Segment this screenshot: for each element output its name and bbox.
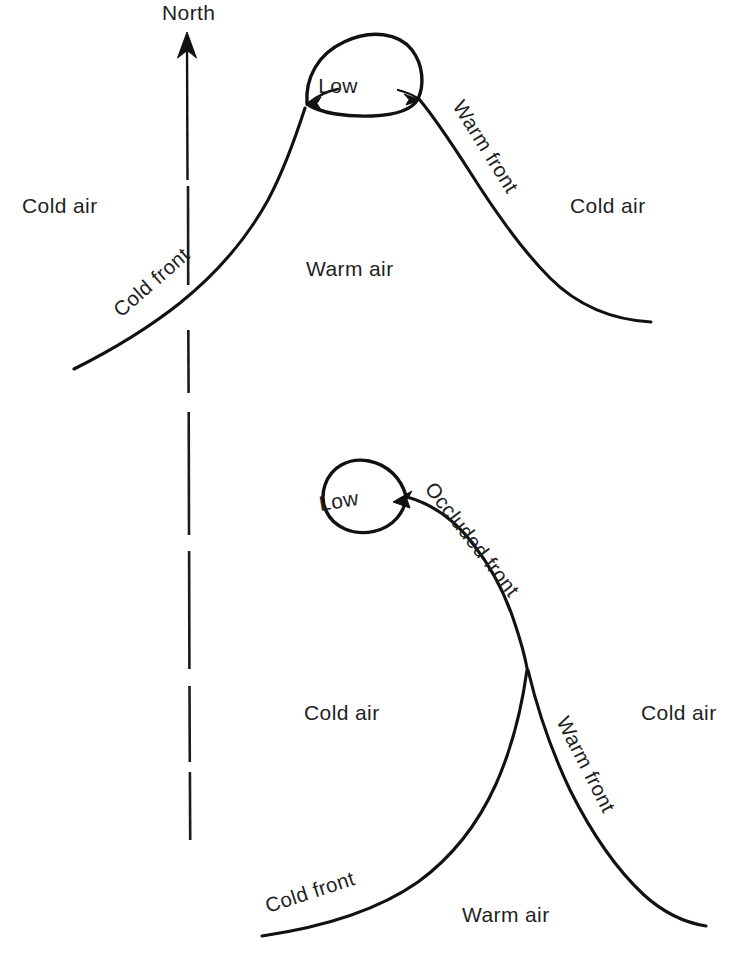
upper-cold-air-right-label: Cold air xyxy=(570,194,646,217)
lower-warm-air-label: Warm air xyxy=(462,903,550,926)
lower-occluded-front-label: Occluded front xyxy=(421,477,525,601)
lower-cold-air-left-label: Cold air xyxy=(304,701,380,724)
lower-diagram-group xyxy=(262,460,706,936)
lower-warm-front-label: Warm front xyxy=(552,712,620,816)
lower-low-pointer xyxy=(393,491,412,508)
weather-front-diagram: North Low Cold air Cold air Warm air Col… xyxy=(0,0,743,953)
upper-cold-front-label: Cold front xyxy=(109,243,194,321)
lower-cold-air-right-label: Cold air xyxy=(641,701,717,724)
upper-warm-front-label: Warm front xyxy=(449,96,524,197)
north-arrow-shaft xyxy=(187,40,188,180)
lower-cold-front-label: Cold front xyxy=(262,866,357,917)
meridian-dashed-line xyxy=(188,186,190,840)
diagram-canvas: North Low Cold air Cold air Warm air Col… xyxy=(0,0,743,953)
north-arrow-group xyxy=(178,32,197,180)
north-label: North xyxy=(162,1,215,24)
upper-warm-air-label: Warm air xyxy=(306,257,394,280)
upper-cold-front-path xyxy=(74,108,305,369)
lower-low-label: Low xyxy=(317,486,360,515)
upper-low-label: Low xyxy=(318,74,358,97)
upper-diagram-group xyxy=(74,34,651,369)
upper-cold-air-left-label: Cold air xyxy=(22,194,98,217)
